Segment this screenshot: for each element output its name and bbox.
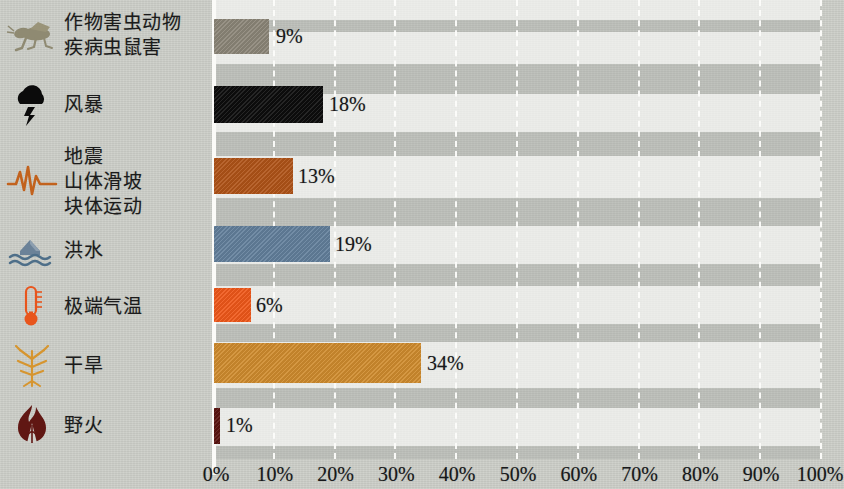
category-row-crop-pests: 作物害虫动物 疾病虫鼠害 (0, 2, 212, 68)
category-label-line: 风暴 (64, 92, 212, 117)
bar-value-label: 34% (427, 352, 464, 375)
category-label-line: 野火 (64, 413, 212, 438)
category-row-extreme-temperature: 极端气温 (0, 281, 212, 331)
category-label-line: 山体滑坡 (64, 169, 212, 194)
bar-value-label: 9% (276, 25, 303, 48)
x-tick-100: 100% (797, 463, 844, 486)
plot-area: 9% 18% 13% 19% 6% 34% 1% (212, 0, 820, 459)
category-label-line: 地震 (64, 144, 212, 169)
bar-drought (214, 343, 421, 383)
category-label: 野火 (64, 413, 212, 438)
category-label-line: 极端气温 (64, 294, 212, 319)
gridline-60 (577, 0, 579, 459)
seismograph-icon (0, 164, 64, 198)
category-row-earthquake: 地震 山体滑坡 块体运动 (0, 140, 212, 222)
bar-flood (214, 226, 330, 262)
gridline-50 (516, 0, 518, 459)
bar-storm (214, 86, 323, 123)
bar-earthquake (214, 158, 293, 194)
x-tick-90: 90% (743, 463, 780, 486)
storm-cloud-lightning-icon (0, 82, 64, 126)
dead-tree-drought-icon (0, 341, 64, 389)
gridline-80 (698, 0, 700, 459)
bar-value-label: 18% (329, 93, 366, 116)
x-tick-40: 40% (439, 463, 476, 486)
category-label: 地震 山体滑坡 块体运动 (64, 144, 212, 219)
category-label-line: 干旱 (64, 353, 212, 378)
flood-house-icon (0, 233, 64, 267)
x-tick-50: 50% (500, 463, 537, 486)
bar-wildfire (214, 408, 220, 444)
category-label-column: 作物害虫动物 疾病虫鼠害 风暴 (0, 0, 212, 459)
category-label-line: 洪水 (64, 238, 212, 263)
gridline-20 (334, 0, 336, 459)
gridline-30 (394, 0, 396, 459)
x-tick-30: 30% (378, 463, 415, 486)
category-label: 风暴 (64, 92, 212, 117)
bar-value-label: 13% (298, 165, 335, 188)
flame-wildfire-icon (0, 403, 64, 447)
category-label: 干旱 (64, 353, 212, 378)
category-row-flood: 洪水 (0, 226, 212, 274)
category-label: 极端气温 (64, 294, 212, 319)
x-tick-0: 0% (203, 463, 230, 486)
category-label: 作物害虫动物 疾病虫鼠害 (64, 10, 212, 60)
category-row-drought: 干旱 (0, 338, 212, 392)
x-axis: 0% 10% 20% 30% 40% 50% 60% 70% 80% 90% 1… (212, 459, 844, 489)
locust-icon (0, 18, 64, 52)
x-tick-20: 20% (317, 463, 354, 486)
category-row-wildfire: 野火 (0, 400, 212, 450)
x-tick-80: 80% (682, 463, 719, 486)
gridline-40 (455, 0, 457, 459)
category-label: 洪水 (64, 238, 212, 263)
bar-crop-pests (214, 19, 269, 54)
bar-value-label: 6% (256, 294, 283, 317)
x-tick-70: 70% (621, 463, 658, 486)
x-tick-10: 10% (256, 463, 293, 486)
category-label-line: 作物害虫动物 (64, 10, 212, 35)
category-label-line: 块体运动 (64, 194, 212, 219)
horizontal-bar-chart: 作物害虫动物 疾病虫鼠害 风暴 (0, 0, 844, 489)
gridline-70 (638, 0, 640, 459)
gridline-100 (820, 0, 822, 459)
thermometer-icon (0, 283, 64, 329)
bar-extreme-temperature (214, 288, 251, 322)
category-label-line: 疾病虫鼠害 (64, 35, 212, 60)
x-tick-60: 60% (560, 463, 597, 486)
bar-value-label: 19% (335, 233, 372, 256)
bar-value-label: 1% (226, 414, 253, 437)
category-row-storm: 风暴 (0, 78, 212, 130)
gridline-90 (759, 0, 761, 459)
